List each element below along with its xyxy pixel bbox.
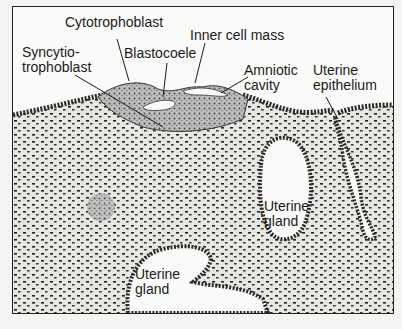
label-inner-cell-mass: Inner cell mass	[190, 28, 284, 43]
label-syncytiotrophoblast: Syncytio-trophoblast	[22, 45, 91, 75]
diagram-frame: Cytotrophoblast Inner cell mass Syncytio…	[12, 6, 394, 314]
label-uterine-gland-right: Uterinegland	[264, 199, 309, 229]
label-uterine-epithelium: Uterineepithelium	[313, 63, 377, 93]
label-uterine-gland-bottom: Uterinegland	[135, 267, 180, 297]
label-cytotrophoblast: Cytotrophoblast	[65, 15, 163, 30]
label-amniotic-cavity: Amnioticcavity	[244, 63, 298, 93]
label-blastocoele: Blastocoele	[124, 46, 196, 61]
blood-vessel	[87, 193, 115, 221]
